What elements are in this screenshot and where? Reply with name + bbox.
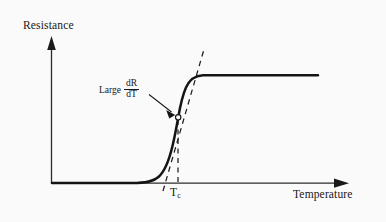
x-axis-arrowhead <box>334 179 349 188</box>
critical-temperature-label: Tc <box>170 186 181 200</box>
annotation-leader-arrow <box>149 95 175 119</box>
annotation-prefix-text: Large <box>99 85 121 95</box>
inflection-point-marker <box>176 115 181 120</box>
resistance-curve <box>52 75 318 183</box>
x-axis-label: Temperature <box>293 188 353 200</box>
slope-annotation: Large dR dT <box>99 79 139 100</box>
y-axis-arrowhead <box>47 36 56 50</box>
y-axis <box>47 36 56 183</box>
annotation-arrow-shaft <box>149 95 172 113</box>
figure-container: Resistance Temperature Tc Large dR dT <box>0 0 386 222</box>
tc-symbol: T <box>170 186 177 198</box>
derivative-denominator: dT <box>125 90 138 100</box>
tangent-dashed-line <box>163 51 204 191</box>
tc-subscript: c <box>177 191 181 200</box>
y-axis-label: Resistance <box>23 19 74 31</box>
derivative-fraction: dR dT <box>124 79 139 100</box>
derivative-numerator: dR <box>125 79 138 89</box>
